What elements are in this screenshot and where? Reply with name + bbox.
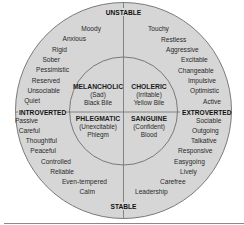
trait-label: Outgoing — [192, 127, 219, 135]
trait-label: Pessimistic — [36, 66, 70, 73]
temperament-choleric: CHOLERIC (Irritable) Yellow Bile — [131, 83, 167, 106]
temperament-wheel: UNSTABLE STABLE INTROVERTED EXTROVERTED … — [0, 0, 244, 225]
trait-label: Lively — [180, 168, 198, 176]
temperament-trait: (Irritable) — [136, 91, 162, 99]
axis-label-stable: STABLE — [111, 203, 137, 210]
axis-label-unstable: UNSTABLE — [106, 9, 142, 16]
trait-label: Responsive — [178, 147, 213, 155]
trait-label: Impulsive — [188, 77, 216, 85]
trait-label: Even-tempered — [62, 178, 107, 186]
trait-label: Aggressive — [166, 46, 199, 54]
trait-label: Reserved — [32, 77, 61, 84]
trait-label: Leadership — [135, 188, 168, 196]
temperament-name: PHLEGMATIC — [76, 115, 121, 122]
trait-label: Passive — [15, 117, 38, 124]
trait-label: Sober — [42, 56, 60, 63]
trait-label: Touchy — [148, 25, 170, 33]
temperament-trait: (Confident) — [133, 123, 165, 131]
trait-label: Quiet — [24, 97, 40, 105]
temperament-trait: (Unexcitable) — [79, 123, 117, 131]
trait-label: Carefree — [160, 178, 186, 185]
temperament-trait: (Sad) — [90, 91, 106, 99]
trait-label: Thoughtful — [26, 137, 58, 145]
trait-label: Restless — [161, 36, 187, 43]
temperament-name: CHOLERIC — [131, 83, 167, 90]
temperament-name: SANGUINE — [131, 115, 167, 122]
trait-label: Peaceful — [30, 147, 56, 154]
temperament-humor: Black Bile — [84, 99, 113, 106]
trait-label: Excitable — [181, 56, 208, 63]
trait-label: Anxious — [63, 35, 87, 42]
temperament-humor: Yellow Bile — [134, 99, 165, 106]
trait-label: Rigid — [52, 46, 67, 54]
trait-label: Moody — [81, 25, 101, 33]
trait-label: Reliable — [50, 168, 74, 175]
axis-label-extroverted: EXTROVERTED — [182, 109, 232, 116]
trait-label: Sociable — [196, 117, 222, 124]
temperament-humor: Phlegm — [87, 131, 109, 139]
temperament-humor: Blood — [141, 131, 158, 138]
bottom-rule — [4, 223, 244, 224]
axis-label-introverted: INTROVERTED — [19, 109, 66, 116]
trait-label: Optimistic — [190, 87, 220, 95]
trait-label: Changeable — [178, 67, 214, 75]
trait-label: Easygoing — [174, 158, 205, 166]
trait-label: Unsociable — [27, 87, 60, 94]
trait-label: Controlled — [41, 158, 71, 165]
trait-label: Calm — [80, 188, 96, 195]
trait-label: Talkative — [191, 137, 217, 144]
trait-label: Careful — [19, 127, 41, 134]
temperament-name: MELANCHOLIC — [73, 83, 123, 90]
trait-label: Active — [203, 98, 221, 105]
